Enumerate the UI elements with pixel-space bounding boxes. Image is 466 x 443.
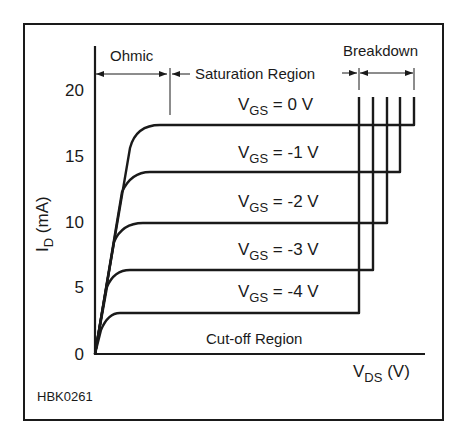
ohmic-label: Ohmic: [110, 47, 154, 64]
y-tick-labels: 20 15 10 5 0: [65, 81, 84, 364]
y-tick-20: 20: [65, 81, 84, 100]
label-vgs-minus2: VGS = -2 V: [238, 192, 319, 215]
x-axis-label: VDS (V): [353, 362, 410, 385]
label-vgs-0: VGS = 0 V: [238, 95, 314, 118]
breakdown-label: Breakdown: [343, 42, 418, 59]
y-tick-10: 10: [65, 213, 84, 232]
y-tick-5: 5: [75, 278, 84, 297]
label-vgs-minus3: VGS = -3 V: [238, 240, 319, 263]
curve-labels: VGS = 0 V VGS = -1 V VGS = -2 V VGS = -3…: [238, 95, 319, 305]
label-vgs-minus1: VGS = -1 V: [238, 143, 319, 166]
y-axis-label: ID (mA): [33, 196, 56, 252]
label-vgs-minus4: VGS = -4 V: [238, 282, 319, 305]
curve-vgs-minus2: [95, 97, 387, 354]
curves: [95, 97, 414, 354]
y-tick-0: 0: [75, 345, 84, 364]
curve-vgs-minus1: [95, 97, 400, 354]
figure-id: HBK0261: [37, 389, 93, 404]
y-tick-15: 15: [65, 147, 84, 166]
jfet-characteristics-chart: 20 15 10 5 0 ID (mA) VDS (V) Ohmic Satur…: [0, 0, 466, 443]
curve-vgs-0: [95, 97, 414, 354]
cutoff-label: Cut-off Region: [206, 330, 302, 347]
saturation-label: Saturation Region: [195, 65, 315, 82]
svg-text:ID (mA): ID (mA): [33, 196, 56, 252]
